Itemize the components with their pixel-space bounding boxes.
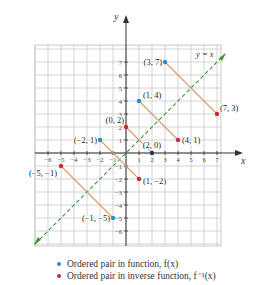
inverse-point (124, 125, 128, 129)
point-label: (3, 7) (144, 57, 163, 67)
legend-dot-inverse-icon (57, 274, 61, 278)
y-tick-label: 5 (119, 85, 122, 92)
function-point (98, 138, 102, 142)
y-tick-label: −2 (115, 176, 122, 183)
point-label: (−5, −1) (29, 168, 57, 178)
reference-line (35, 54, 225, 244)
y-tick-label: −5 (115, 215, 122, 222)
inverse-point (176, 138, 180, 142)
function-point (150, 151, 154, 155)
point-label: (7, 3) (220, 103, 239, 113)
x-tick-label: 4 (176, 156, 180, 163)
y-axis-label: y (113, 11, 119, 22)
y-tick-label: −6 (115, 228, 123, 235)
point-label: (0, 2) (106, 115, 125, 125)
x-tick-label: −3 (84, 156, 91, 163)
axes: xy−6−5−4−3−2−11234567−6−5−4−3−2−11234567 (35, 11, 246, 246)
point-label: (2, 0) (143, 140, 162, 150)
legend-item-inverse: Ordered pair in inverse function, f⁻¹(x) (57, 270, 216, 282)
x-tick-label: 3 (163, 156, 166, 163)
function-point (163, 60, 167, 64)
inverse-point (215, 112, 219, 116)
point-label: (1, 4) (143, 90, 162, 100)
y-axis-arrow-icon (123, 15, 129, 23)
point-label: (4, 1) (182, 135, 201, 145)
legend-label-function: Ordered pair in function, f(x) (67, 258, 178, 270)
y-tick-label: −3 (115, 189, 122, 196)
x-tick-label: 1 (137, 156, 140, 163)
x-tick-label: 7 (215, 156, 219, 163)
function-point (111, 216, 115, 220)
x-tick-label: −6 (45, 156, 53, 163)
function-point (137, 99, 141, 103)
x-tick-label: 2 (150, 156, 153, 163)
y-tick-label: 1 (119, 137, 122, 144)
point-label: (−2, 1) (74, 135, 97, 145)
x-axis-label: x (240, 155, 246, 166)
point-label: (1, −2) (143, 176, 166, 186)
reference-arrow-up-icon (219, 53, 226, 61)
chart-canvas: xy−6−5−4−3−2−11234567−6−5−4−3−2−11234567… (0, 0, 258, 285)
x-tick-label: 5 (189, 156, 192, 163)
x-tick-label: 6 (202, 156, 206, 163)
reference-line-y-equals-x: y = x (34, 49, 226, 245)
inverse-point (59, 164, 63, 168)
legend: Ordered pair in function, f(x) Ordered p… (57, 258, 216, 282)
x-tick-label: −5 (58, 156, 65, 163)
reference-line-label: y = x (195, 49, 214, 59)
legend-label-inverse: Ordered pair in inverse function, f⁻¹(x) (67, 270, 216, 282)
legend-dot-function-icon (57, 262, 61, 266)
inverse-point (137, 177, 141, 181)
point-label: (−1, −5) (82, 213, 110, 223)
legend-item-function: Ordered pair in function, f(x) (57, 258, 216, 270)
x-tick-label: −4 (71, 156, 79, 163)
y-tick-label: −4 (115, 202, 123, 209)
x-tick-label: −2 (97, 156, 104, 163)
